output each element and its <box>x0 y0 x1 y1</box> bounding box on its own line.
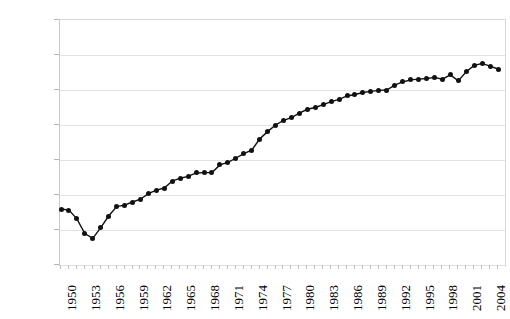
x-tick-mark <box>195 265 196 269</box>
x-tick-mark <box>275 265 276 269</box>
data-point <box>154 188 159 193</box>
data-point <box>130 200 135 205</box>
x-tick-mark <box>338 265 339 269</box>
x-tick-mark <box>92 265 93 269</box>
data-point <box>202 170 207 175</box>
x-tick-label: 1992 <box>399 285 412 311</box>
x-tick-mark <box>290 265 291 269</box>
x-tick-mark <box>489 265 490 269</box>
x-tick-mark <box>441 265 442 269</box>
x-tick-mark <box>473 265 474 269</box>
data-point <box>305 107 310 112</box>
x-tick-label: 2004 <box>494 285 507 311</box>
x-tick-mark <box>227 265 228 269</box>
x-tick-label: 1989 <box>375 285 388 311</box>
x-tick-mark <box>139 265 140 269</box>
x-tick-mark <box>386 265 387 269</box>
x-tick-label: 1980 <box>303 285 316 311</box>
x-tick-mark <box>76 265 77 269</box>
data-point <box>122 203 127 208</box>
data-point <box>496 67 501 72</box>
data-point <box>273 123 278 128</box>
x-tick-mark <box>402 265 403 269</box>
data-point <box>249 148 254 153</box>
x-tick-mark <box>282 265 283 269</box>
x-tick-mark <box>465 265 466 269</box>
x-tick-mark <box>410 265 411 269</box>
data-point <box>488 64 493 69</box>
x-tick-mark <box>116 265 117 269</box>
x-tick-mark <box>346 265 347 269</box>
x-tick-mark <box>179 265 180 269</box>
x-tick-label: 1974 <box>256 285 269 311</box>
data-point <box>106 214 111 219</box>
x-tick-mark <box>132 265 133 269</box>
data-point <box>162 186 167 191</box>
data-point <box>337 97 342 102</box>
x-tick-label: 1950 <box>65 285 78 311</box>
x-tick-label: 1956 <box>113 285 126 311</box>
x-tick-mark <box>84 265 85 269</box>
x-tick-mark <box>124 265 125 269</box>
x-tick-mark <box>425 265 426 269</box>
x-tick-mark <box>378 265 379 269</box>
data-point <box>178 176 183 181</box>
data-point <box>432 75 437 80</box>
x-tick-mark <box>163 265 164 269</box>
data-point <box>313 105 318 110</box>
x-tick-mark <box>187 265 188 269</box>
x-tick-mark <box>108 265 109 269</box>
x-tick-mark <box>68 265 69 269</box>
data-point <box>170 179 175 184</box>
x-tick-mark <box>322 265 323 269</box>
x-tick-label: 2001 <box>470 285 483 311</box>
data-point <box>59 207 64 212</box>
x-tick-mark <box>171 265 172 269</box>
x-tick-mark <box>481 265 482 269</box>
data-point <box>480 61 485 66</box>
data-point <box>138 197 143 202</box>
x-tick-mark <box>235 265 236 269</box>
x-tick-mark <box>362 265 363 269</box>
data-point <box>392 83 397 88</box>
x-tick-mark <box>219 265 220 269</box>
x-tick-label: 1953 <box>89 285 102 311</box>
data-point <box>281 118 286 123</box>
data-point <box>146 191 151 196</box>
x-tick-label: 1998 <box>446 285 459 311</box>
x-tick-mark <box>60 265 61 269</box>
x-tick-mark <box>267 265 268 269</box>
series-line <box>60 20 506 266</box>
x-tick-label: 1971 <box>232 285 245 311</box>
x-tick-mark <box>418 265 419 269</box>
x-tick-mark <box>314 265 315 269</box>
data-point <box>321 102 326 107</box>
data-point <box>424 76 429 81</box>
data-point <box>257 137 262 142</box>
x-tick-mark <box>330 265 331 269</box>
x-tick-mark <box>298 265 299 269</box>
x-tick-mark <box>394 265 395 269</box>
chart-figure: 0.5000.4000.3000.2000.100-0.000-0.100-0.… <box>0 0 510 319</box>
series-polyline <box>61 63 498 238</box>
x-tick-label: 1965 <box>184 285 197 311</box>
x-tick-mark <box>433 265 434 269</box>
x-tick-mark <box>457 265 458 269</box>
x-tick-mark <box>243 265 244 269</box>
plot-area <box>59 19 506 266</box>
x-tick-mark <box>211 265 212 269</box>
x-tick-mark <box>203 265 204 269</box>
data-point <box>416 77 421 82</box>
data-point <box>472 63 477 68</box>
data-point <box>440 77 445 82</box>
x-tick-mark <box>147 265 148 269</box>
x-tick-label: 1959 <box>137 285 150 311</box>
x-tick-label: 1983 <box>327 285 340 311</box>
x-tick-label: 1986 <box>351 285 364 311</box>
x-tick-label: 1977 <box>280 285 293 311</box>
x-tick-mark <box>259 265 260 269</box>
x-tick-mark <box>497 265 498 269</box>
data-point <box>384 88 389 93</box>
x-tick-mark <box>354 265 355 269</box>
data-point <box>297 111 302 116</box>
